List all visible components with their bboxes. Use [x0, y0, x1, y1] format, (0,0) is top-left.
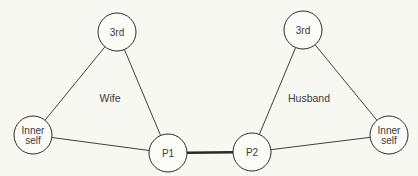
- node-label-line2: self: [381, 135, 397, 146]
- edge-p2-husband_inner: [271, 137, 370, 149]
- edge-wife_third-wife_inner: [45, 47, 105, 121]
- husband-label: Husband: [288, 92, 330, 104]
- node-label: P2: [246, 147, 259, 158]
- edge-husband_third-husband_inner: [315, 45, 377, 121]
- node-p1: P1: [149, 134, 187, 172]
- node-label: 3rd: [296, 25, 310, 36]
- node-label: 3rd: [110, 27, 124, 38]
- node-p2: P2: [233, 133, 271, 171]
- node-label: P1: [162, 148, 175, 159]
- edge-wife_third-p1: [124, 50, 160, 136]
- edge-wife_inner-p1: [52, 138, 149, 151]
- nodes: 3rd Inner self P1 P2 3rd Inner self: [14, 11, 408, 172]
- relationship-triangles-diagram: Wife Husband 3rd Inner self P1 P2 3rd In…: [0, 0, 418, 176]
- node-label-line2: self: [25, 135, 41, 146]
- wife-label: Wife: [100, 92, 121, 104]
- node-husband-third: 3rd: [284, 11, 322, 49]
- node-wife-inner-self: Inner self: [14, 116, 52, 154]
- node-husband-inner-self: Inner self: [370, 116, 408, 154]
- node-wife-third: 3rd: [98, 13, 136, 51]
- edge-p1-p2: [187, 152, 233, 153]
- triangle-labels: Wife Husband: [100, 92, 331, 104]
- edge-husband_third-p2: [259, 48, 295, 135]
